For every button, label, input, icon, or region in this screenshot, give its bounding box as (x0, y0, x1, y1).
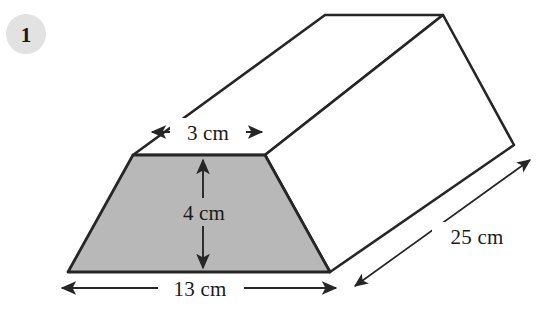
dimension-top-width-label: 3 cm (187, 121, 229, 145)
badge-label: 1 (21, 23, 32, 47)
figure-container: 1 3 cm 4 cm 13 cm (0, 0, 553, 314)
dimension-length-label: 25 cm (451, 225, 504, 249)
question-number-badge: 1 (6, 14, 46, 54)
dimension-base-width-label: 13 cm (174, 277, 227, 301)
dimension-height-label: 4 cm (183, 201, 225, 225)
dimension-base-width: 13 cm (62, 274, 336, 302)
trapezoidal-prism-diagram: 1 3 cm 4 cm 13 cm (0, 0, 553, 314)
